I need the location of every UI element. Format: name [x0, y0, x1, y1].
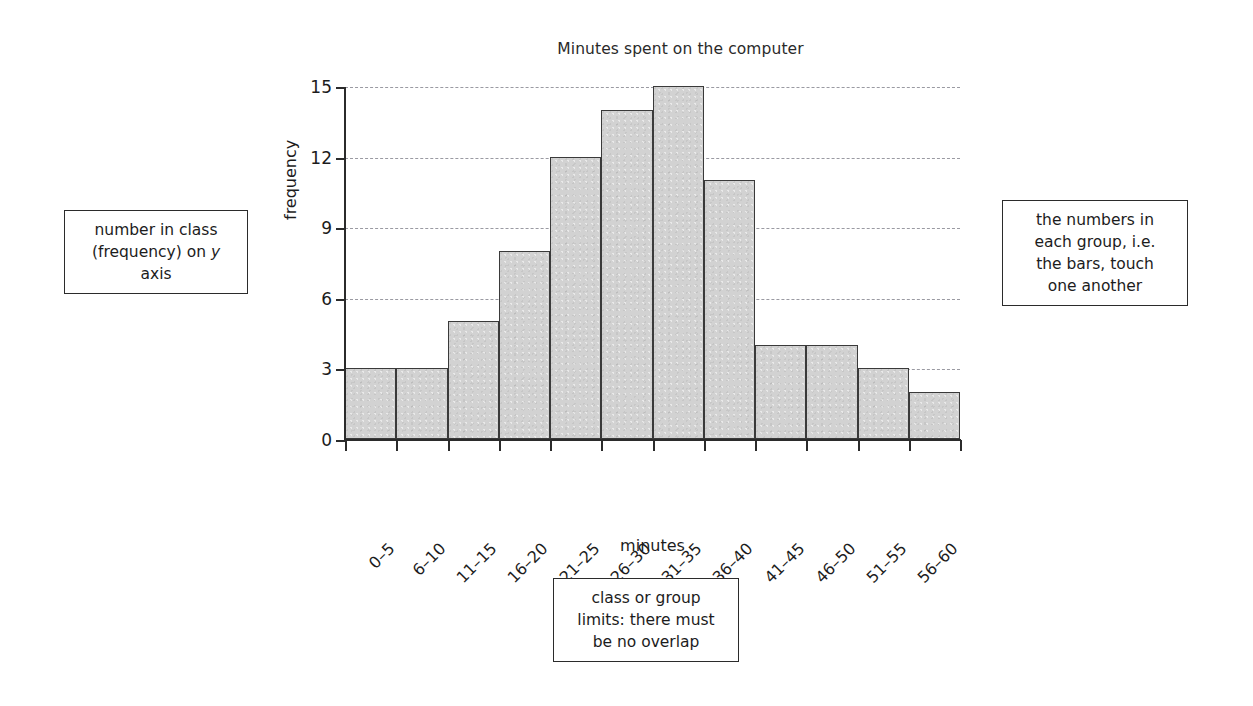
bar [550, 157, 601, 439]
y-axis-line [344, 87, 346, 441]
bar [345, 368, 396, 439]
bar [909, 392, 960, 439]
y-tick-mark [336, 228, 345, 230]
bar [448, 321, 499, 439]
bar [704, 180, 755, 439]
callout-bottom-line-3: be no overlap [564, 631, 728, 653]
bar [499, 251, 550, 439]
x-tick-mark [909, 440, 911, 451]
y-axis-title: frequency [281, 140, 300, 220]
y-tick-label: 15 [310, 77, 332, 97]
bar [806, 345, 857, 439]
x-tick-mark [345, 440, 347, 451]
y-tick-label: 12 [310, 148, 332, 168]
callout-bottom-line-1: class or group [564, 587, 728, 609]
x-tick-mark [550, 440, 552, 451]
callout-right-line-4: one another [1013, 275, 1177, 297]
y-tick-mark [336, 299, 345, 301]
x-tick-mark [396, 440, 398, 451]
y-tick-mark [336, 158, 345, 160]
y-tick-mark [336, 87, 345, 89]
callout-right-line-3: the bars, touch [1013, 253, 1177, 275]
bar [601, 110, 652, 439]
callout-left-line-3: axis [75, 263, 237, 285]
callout-left-line-2-text: (frequency) on [92, 243, 211, 261]
y-tick-mark [336, 369, 345, 371]
bar [755, 345, 806, 439]
chart-title: Minutes spent on the computer [0, 40, 1253, 58]
callout-left-italic-y: y [211, 243, 220, 261]
y-tick-mark [336, 440, 345, 442]
x-tick-mark [499, 440, 501, 451]
x-tick-mark [653, 440, 655, 451]
x-axis-title: minutes [345, 536, 960, 555]
y-tick-label: 9 [321, 218, 332, 238]
x-tick-mark [858, 440, 860, 451]
y-tick-label: 3 [321, 359, 332, 379]
callout-class-limits: class or group limits: there must be no … [553, 578, 739, 662]
x-tick-mark [806, 440, 808, 451]
y-tick-label: 0 [321, 430, 332, 450]
chart-title-text: Minutes spent on the computer [557, 40, 803, 58]
callout-frequency-axis: number in class (frequency) on y axis [64, 210, 248, 294]
callout-right-line-1: the numbers in [1013, 209, 1177, 231]
callout-right-line-2: each group, i.e. [1013, 231, 1177, 253]
x-tick-mark [704, 440, 706, 451]
x-tick-mark [448, 440, 450, 451]
plot-area: 03691215 0–56–1011–1516–2021–2526–3031–3… [345, 87, 960, 440]
callout-left-line-2: (frequency) on y [75, 241, 237, 263]
callout-bars-touch: the numbers in each group, i.e. the bars… [1002, 200, 1188, 306]
bar-series [345, 87, 960, 440]
bar [653, 86, 704, 439]
bar [858, 368, 909, 439]
callout-left-line-1: number in class [75, 219, 237, 241]
x-tick-mark [601, 440, 603, 451]
callout-bottom-line-2: limits: there must [564, 609, 728, 631]
x-tick-mark [755, 440, 757, 451]
x-tick-mark [960, 440, 962, 451]
bar [396, 368, 447, 439]
y-tick-label: 6 [321, 289, 332, 309]
